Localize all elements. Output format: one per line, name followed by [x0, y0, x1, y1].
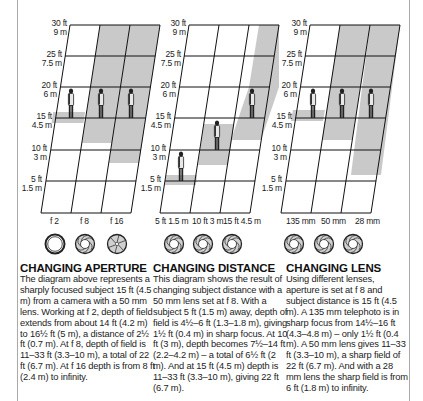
column-label-f2: f 2 — [50, 216, 59, 226]
column-label-f8: f 8 — [80, 216, 89, 226]
caption-distance: CHANGING DISTANCE This diagram shows the… — [153, 262, 289, 394]
body-changing-distance: This diagram shows the result of changin… — [153, 274, 289, 394]
heading-changing-aperture: CHANGING APERTURE — [20, 262, 156, 274]
scale-label-20ft: 20 ft6 m — [270, 81, 297, 99]
scale-label-15ft: 15 ft4.5 m — [262, 112, 292, 130]
scale-label-5ft: 5 ft1.5 m — [14, 175, 42, 193]
caption-aperture: CHANGING APERTURE The diagram above repr… — [20, 262, 156, 383]
body-changing-aperture: The diagram above represents a sharply f… — [20, 274, 156, 383]
scale-label-10ft: 10 ft3 m — [139, 144, 166, 162]
scale-label-30ft: 30 ft9 m — [280, 19, 307, 37]
caption-lens: CHANGING LENS Using different lenses, ap… — [286, 262, 408, 394]
aperture-f8-icon — [344, 235, 363, 254]
scale-label-30ft: 30 ft9 m — [40, 19, 67, 37]
scale-label-15ft: 15 ft4.5 m — [141, 112, 171, 130]
body-changing-lens: Using different lenses, aperture is set … — [286, 274, 408, 394]
aperture-f8-icon — [285, 235, 304, 254]
column-label-f16: f 16 — [110, 216, 123, 226]
column-label-15ft: 15 ft 4.5 m — [223, 216, 261, 226]
scale-label-10ft: 10 ft3 m — [260, 144, 287, 162]
scale-label-15ft: 15 ft4.5 m — [22, 112, 52, 130]
column-label-28mm: 28 mm — [355, 216, 380, 226]
scale-label-30ft: 30 ft9 m — [159, 19, 186, 37]
scale-label-10ft: 10 ft3 m — [20, 144, 47, 162]
scale-label-5ft: 5 ft1.5 m — [133, 175, 161, 193]
heading-changing-distance: CHANGING DISTANCE — [153, 262, 289, 274]
scale-label-25ft: 25 ft7.5 m — [273, 50, 302, 68]
aperture-small-icon — [108, 235, 127, 254]
aperture-f8-icon — [223, 235, 242, 254]
scale-label-25ft: 25 ft7.5 m — [152, 50, 181, 68]
aperture-f8-icon — [194, 235, 213, 254]
scale-label-25ft: 25 ft7.5 m — [33, 50, 62, 68]
aperture-wide-open-icon — [46, 235, 65, 254]
aperture-f8-icon — [165, 235, 184, 254]
scale-label-5ft: 5 ft1.5 m — [254, 175, 282, 193]
column-label-135mm: 135 mm — [286, 216, 316, 226]
heading-changing-lens: CHANGING LENS — [286, 262, 408, 274]
column-label-5ft: 5 ft 1.5 m — [155, 216, 188, 226]
column-label-10ft: 10 ft 3 m — [192, 216, 223, 226]
aperture-medium-icon — [76, 235, 95, 254]
scale-label-20ft: 20 ft6 m — [149, 81, 176, 99]
column-label-50mm: 50 mm — [321, 216, 346, 226]
scale-label-20ft: 20 ft6 m — [30, 81, 57, 99]
aperture-f8-icon — [315, 235, 334, 254]
